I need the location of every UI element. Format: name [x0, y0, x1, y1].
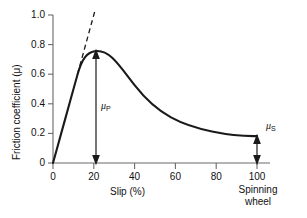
- x-tick-label-80: 80: [201, 172, 231, 182]
- y-tick-label-0_2: 0.2: [18, 128, 45, 138]
- y-tick-label-0_6: 0.6: [18, 69, 45, 79]
- x-tick-label-60: 60: [160, 172, 190, 182]
- x-axis-ticks: [53, 163, 257, 169]
- friction-slip-chart: 1.0 0.8 0.6 0.4 0.2 0 0 20 40 60 80 100 …: [0, 0, 307, 218]
- y-axis-title: Friction coefficient (μ): [11, 64, 22, 160]
- y-tick-label-0_4: 0.4: [18, 99, 45, 109]
- x-axis-title-text: Slip (%): [110, 186, 145, 197]
- spinning-wheel-note: Spinning wheel: [222, 184, 294, 208]
- y-tick-label-0: 0: [18, 158, 45, 168]
- peak-friction-label: μP: [101, 100, 111, 111]
- x-tick-label-0: 0: [38, 172, 68, 182]
- spinning-wheel-note-line-2: wheel: [222, 196, 294, 208]
- x-tick-label-100: 100: [242, 172, 272, 182]
- sliding-friction-label: μS: [266, 120, 276, 131]
- x-tick-label-20: 20: [79, 172, 109, 182]
- sliding-friction-arrow: [254, 136, 260, 164]
- x-tick-label-40: 40: [120, 172, 150, 182]
- peak-friction-subscript: P: [106, 105, 111, 112]
- y-axis-ticks: [48, 15, 53, 163]
- sliding-friction-subscript: S: [271, 125, 276, 132]
- friction-curve: [53, 51, 257, 163]
- y-tick-label-0_8: 0.8: [18, 40, 45, 50]
- peak-friction-arrow: [93, 51, 99, 164]
- spinning-wheel-note-line-1: Spinning: [222, 184, 294, 196]
- y-tick-label-1: 1.0: [18, 10, 45, 20]
